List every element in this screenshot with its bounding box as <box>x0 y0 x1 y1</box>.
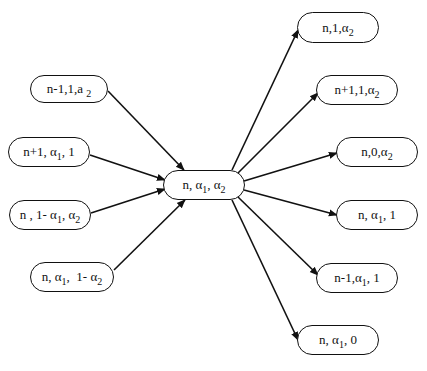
arrow-edge-in4-to-c <box>114 200 185 270</box>
arrow-edge-c-to-out3 <box>244 153 337 181</box>
center-state-node: n, α1, α2 <box>163 170 245 200</box>
incoming-state-node-4: n, α1, 1- α2 <box>30 262 114 292</box>
arrow-edge-in2-to-c <box>90 155 165 180</box>
node-label: n,1,α2 <box>322 20 353 36</box>
node-label: n , 1- α1, α2 <box>20 207 80 223</box>
outgoing-state-node-2: n+1,1,α2 <box>316 75 398 105</box>
outgoing-state-node-3: n,0,α2 <box>336 137 418 167</box>
arrow-edge-c-to-out6 <box>232 200 298 340</box>
incoming-state-node-1: n-1,1,a 2 <box>30 75 108 103</box>
arrow-edge-c-to-out5 <box>238 197 318 275</box>
outgoing-state-node-5: n-1,α1, 1 <box>316 263 398 293</box>
outgoing-state-node-1: n,1,α2 <box>297 12 379 43</box>
node-label: n-1,1,a 2 <box>47 81 91 97</box>
node-label: n, α1, α2 <box>182 177 225 193</box>
arrow-edge-in3-to-c <box>91 189 165 213</box>
node-label: n-1,α1, 1 <box>334 270 379 286</box>
incoming-state-node-3: n , 1- α1, α2 <box>9 200 91 230</box>
node-label: n,0,α2 <box>361 144 392 160</box>
arrow-edge-in1-to-c <box>108 91 184 170</box>
outgoing-state-node-6: n, α1, 0 <box>297 325 379 355</box>
arrow-edge-c-to-out1 <box>232 30 298 170</box>
arrow-edge-c-to-out4 <box>244 190 337 215</box>
node-label: n, α1, 1- α2 <box>42 269 102 285</box>
node-label: n, α1, 1 <box>358 207 396 223</box>
incoming-state-node-2: n+1, α1, 1 <box>8 137 90 167</box>
node-label: n+1, α1, 1 <box>23 144 75 160</box>
node-label: n+1,1,α2 <box>334 82 379 98</box>
node-label: n, α1, 0 <box>319 332 357 348</box>
outgoing-state-node-4: n, α1, 1 <box>336 200 418 230</box>
